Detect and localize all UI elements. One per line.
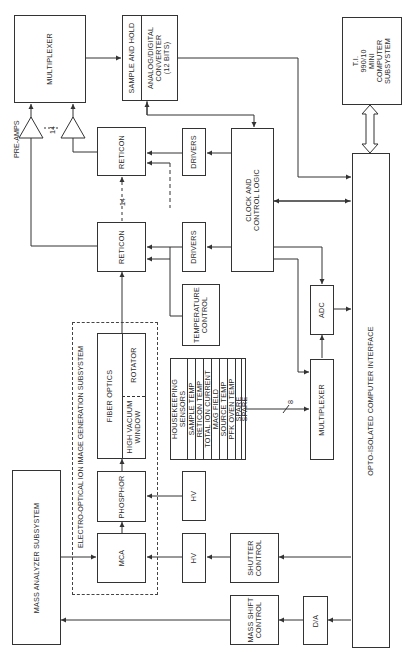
housekeeping-header-2: SENSORS <box>179 379 187 439</box>
window-line2: WINDOW <box>134 401 142 454</box>
drivers-block-1: DRIVERS <box>182 128 206 176</box>
fiber-optics-label: FIBER OPTICS <box>106 370 114 422</box>
drivers-1-label: DRIVERS <box>190 135 198 168</box>
reticon-channel-count: 14 <box>118 198 127 206</box>
clock-line2: CONTROL LOGIC <box>253 169 261 231</box>
adc-block: ADC <box>310 285 334 335</box>
preamp-channel-count: 14 <box>48 126 57 134</box>
multiplexer-top-block: MULTIPLEXER <box>14 15 86 103</box>
reticon-1-label: RETICON <box>118 135 126 169</box>
temperature-control-block: TEMPERATURE CONTROL <box>182 284 220 346</box>
hv-block-1: HV <box>182 471 206 521</box>
adc12-line3: (12 BITS) <box>163 27 171 89</box>
subsystem-label: ELECTRO-OPTICAL ION IMAGE GENERATION SUB… <box>76 344 85 550</box>
fiber-optics-block: FIBER OPTICS ROTATOR HIGH VACUUM WINDOW <box>97 333 146 459</box>
reticon-block-1: RETICON <box>97 127 146 176</box>
d-a-converter-block: D/A <box>303 596 328 645</box>
phosphor-label: PHOSPHOR <box>118 475 126 518</box>
drivers-block-2: DRIVERS <box>182 222 206 272</box>
shutter-line2: CONTROL <box>255 540 263 577</box>
d-a-label: D/A <box>312 614 320 627</box>
mass-analyzer-label: MASS ANALYZER SUBSYSTEM <box>33 502 41 612</box>
clock-control-logic-block: CLOCK AND CONTROL LOGIC <box>231 128 274 272</box>
reticon-2-label: RETICON <box>118 230 126 264</box>
multiplexer-top-label: MULTIPLEXER <box>46 33 54 85</box>
opto-interface-label: OPTO-ISOLATED COMPUTER INTERFACE <box>367 326 375 476</box>
opto-isolated-interface-block: OPTO-ISOLATED COMPUTER INTERFACE <box>352 153 390 648</box>
sample-hold-adc-block: SAMPLE AND HOLD ANALOG/DIGITAL CONVERTER… <box>122 15 178 101</box>
mass-analyzer-block: MASS ANALYZER SUBSYSTEM <box>12 470 61 645</box>
mca-block: MCA <box>97 533 146 583</box>
drivers-2-label: DRIVERS <box>190 230 198 263</box>
shutter-control-block: SHUTTER CONTROL <box>230 533 279 583</box>
ti-minicomputer-block: T.I. 990/10 MINI COMPUTER SUBSYSTEM <box>342 17 402 105</box>
mca-label: MCA <box>118 550 126 567</box>
multiplexer-bottom-block: MULTIPLEXER <box>310 359 334 460</box>
phosphor-block: PHOSPHOR <box>97 471 146 522</box>
sample-hold-label: SAMPLE AND HOLD <box>128 23 136 94</box>
hv-2-label: HV <box>190 553 198 563</box>
pre-amps-label: PRE-AMPS <box>12 120 21 158</box>
adc-label: ADC <box>318 302 326 318</box>
rotator-label: ROTATOR <box>130 347 138 382</box>
reticon-block-2: RETICON <box>97 222 146 272</box>
bidirectional-bus-arrow-icon <box>362 105 378 153</box>
mass-shift-line2: CONTROL <box>255 597 263 642</box>
ti-line5: SUBSYSTEM <box>384 38 392 84</box>
mass-shift-control-block: MASS SHIFT CONTROL <box>230 595 279 645</box>
housekeeping-sensors-table: HOUSEKEEPING SENSORS SAMPLE TEMP RETICON… <box>170 358 246 460</box>
housekeeping-bus-width: 8 <box>286 400 295 404</box>
hv-block-2: HV <box>182 533 206 583</box>
hv-1-label: HV <box>190 491 198 501</box>
temp-line2: CONTROL <box>201 287 209 343</box>
sensor-item: SPARE <box>241 397 249 422</box>
multiplexer-bottom-label: MULTIPLEXER <box>318 384 326 436</box>
